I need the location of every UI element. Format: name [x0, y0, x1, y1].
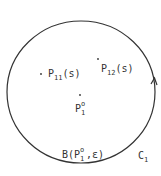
p12-suffix: (s) [115, 63, 133, 74]
ball-sup: o [80, 147, 84, 154]
ball-suffix: ,ε) [86, 149, 104, 160]
point-p11-label: P11(s) [48, 69, 81, 79]
diagram-canvas: P11(s) P12(s) Po1 B(Po1,ε) C1 [0, 0, 161, 176]
c1-sub: 1 [144, 156, 148, 164]
p12-sub: 12 [107, 69, 115, 77]
point-p1o-dot [79, 94, 81, 96]
p1o-scripts: o1 [81, 104, 87, 114]
circle-c1-label: C1 [138, 151, 148, 161]
point-p12-dot [97, 58, 99, 60]
ball-sub: 1 [80, 156, 84, 163]
point-p11-dot [40, 73, 42, 75]
circle-c1 [7, 21, 155, 163]
ball-scripts: o1 [80, 150, 86, 160]
p1o-sub: 1 [81, 110, 85, 117]
p11-suffix: (s) [62, 68, 80, 79]
point-p12-label: P12(s) [101, 64, 134, 74]
ball-prefix: B(P [62, 149, 80, 160]
p1o-sup: o [81, 101, 85, 108]
ball-label: B(Po1,ε) [62, 150, 104, 160]
point-p1o-label: Po1 [75, 104, 87, 114]
p11-sub: 11 [54, 74, 62, 82]
